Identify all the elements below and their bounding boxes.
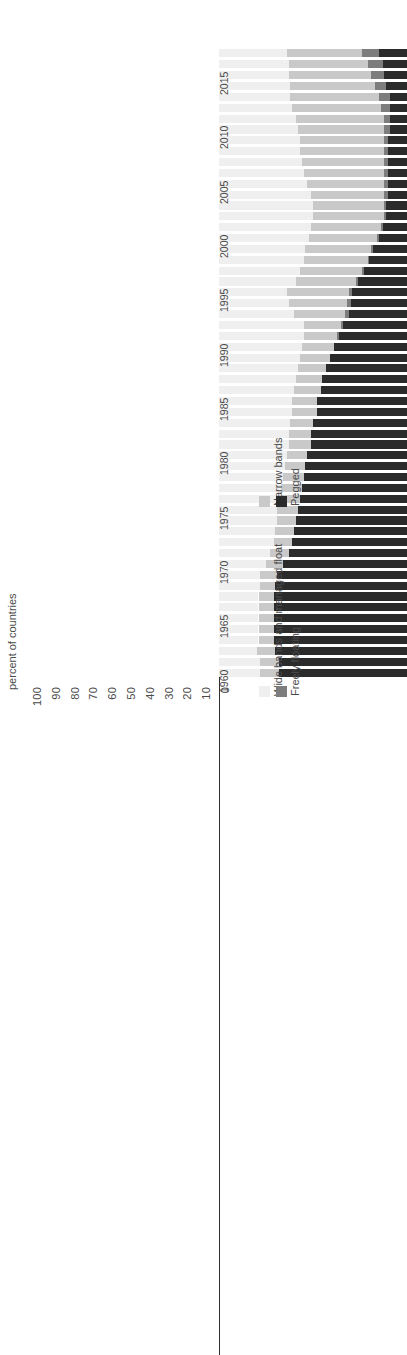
bar-column xyxy=(219,332,407,340)
bar-column xyxy=(219,71,407,79)
bar-segment xyxy=(219,104,292,112)
bar-segment xyxy=(219,125,298,133)
bar-segment xyxy=(294,386,320,394)
bar-segment xyxy=(219,223,311,231)
bar-segment xyxy=(369,256,407,264)
bar-segment xyxy=(384,180,388,188)
bar-segment xyxy=(326,364,407,372)
bar-segment xyxy=(296,516,407,524)
bar-segment xyxy=(384,125,390,133)
bar-segment xyxy=(384,115,390,123)
bar-segment xyxy=(219,354,300,362)
bar-column xyxy=(219,451,407,459)
bar-segment xyxy=(334,343,407,351)
bar-segment xyxy=(304,256,368,264)
bar-segment xyxy=(339,332,407,340)
year-tick-label: 1995 xyxy=(218,272,230,312)
bar-segment xyxy=(313,419,407,427)
bar-segment xyxy=(305,245,371,253)
bar-segment xyxy=(351,299,407,307)
bar-segment xyxy=(298,364,326,372)
bar-segment xyxy=(381,104,390,112)
bar-segment xyxy=(290,82,375,90)
bar-column xyxy=(219,147,407,155)
bar-segment xyxy=(345,310,349,318)
bar-segment xyxy=(337,332,339,340)
year-tick-label: 1985 xyxy=(218,381,230,421)
bar-segment xyxy=(377,234,379,242)
bar-segment xyxy=(375,82,386,90)
bar-segment xyxy=(219,364,298,372)
bar-segment xyxy=(277,516,296,524)
bar-segment xyxy=(349,310,407,318)
bar-segment xyxy=(302,484,407,492)
bar-segment xyxy=(390,93,407,101)
bar-segment xyxy=(388,180,407,188)
bar-segment xyxy=(298,506,407,514)
bar-column xyxy=(219,60,407,68)
bar-segment xyxy=(296,278,356,286)
bar-segment xyxy=(219,343,302,351)
plot-area-rotated xyxy=(219,48,407,678)
bar-segment xyxy=(317,408,407,416)
legend-label: Wide bands and managed float xyxy=(272,544,284,696)
bar-segment xyxy=(289,60,368,68)
bar-segment xyxy=(304,169,385,177)
bar-column xyxy=(219,212,407,220)
bar-segment xyxy=(390,104,407,112)
bar-column xyxy=(219,223,407,231)
bar-segment xyxy=(383,60,407,68)
percent-tick-label: 100 xyxy=(31,687,43,721)
bar-segment xyxy=(373,245,407,253)
bar-segment xyxy=(349,288,353,296)
bar-segment xyxy=(287,451,308,459)
bar-segment xyxy=(219,332,304,340)
bar-segment xyxy=(294,527,407,535)
bar-segment xyxy=(287,288,349,296)
bar-segment xyxy=(341,321,343,329)
bar-segment xyxy=(311,430,407,438)
bar-segment xyxy=(300,495,407,503)
bar-segment xyxy=(219,256,304,264)
bar-column xyxy=(219,516,407,524)
bar-segment xyxy=(384,71,407,79)
bar-segment xyxy=(302,158,385,166)
percent-tick-label: 30 xyxy=(163,687,175,721)
bar-column xyxy=(219,571,407,579)
axis-baseline xyxy=(219,677,220,1355)
bar-segment xyxy=(219,147,300,155)
bar-column xyxy=(219,647,407,655)
bar-segment xyxy=(388,136,407,144)
bar-segment xyxy=(386,201,407,209)
bar-column xyxy=(219,343,407,351)
bar-segment xyxy=(379,234,407,242)
bar-segment xyxy=(384,169,388,177)
bar-segment xyxy=(219,408,292,416)
bar-column xyxy=(219,234,407,242)
bar-column xyxy=(219,321,407,329)
bar-segment xyxy=(388,147,407,155)
bar-segment xyxy=(289,440,312,448)
bar-column xyxy=(219,136,407,144)
bar-segment xyxy=(300,136,385,144)
bar-segment xyxy=(219,201,313,209)
bar-segment xyxy=(384,147,388,155)
year-tick-label: 1970 xyxy=(218,544,230,584)
bar-column xyxy=(219,440,407,448)
bar-segment xyxy=(300,147,385,155)
bar-column xyxy=(219,49,407,57)
bar-segment xyxy=(379,49,407,57)
bar-segment xyxy=(311,223,381,231)
bar-segment xyxy=(362,49,379,57)
bar-segment xyxy=(294,310,345,318)
bar-column xyxy=(219,93,407,101)
bar-segment xyxy=(219,158,302,166)
bar-column xyxy=(219,82,407,90)
bar-column xyxy=(219,495,407,503)
bar-segment xyxy=(388,169,407,177)
bar-column xyxy=(219,484,407,492)
bar-segment xyxy=(300,267,362,275)
year-tick-label: 1960 xyxy=(218,653,230,693)
bar-segment xyxy=(219,278,296,286)
bar-column xyxy=(219,375,407,383)
